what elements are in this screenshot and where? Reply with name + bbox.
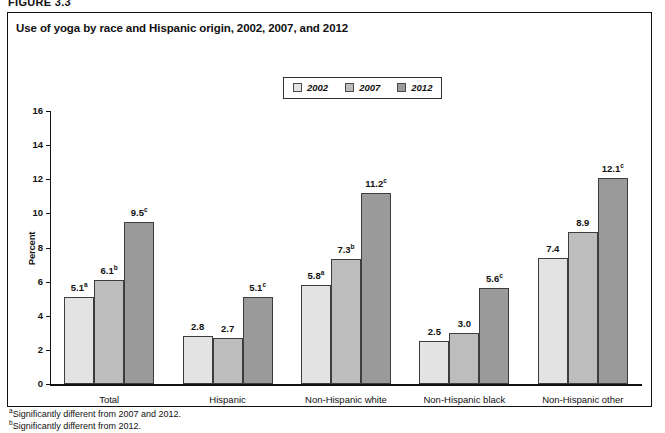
bar-value-label: 9.5c — [114, 208, 164, 218]
y-tick-label: 16 — [21, 106, 43, 116]
y-tick-mark — [46, 282, 50, 283]
footnotes: aSignificantly different from 2007 and 2… — [9, 409, 409, 432]
y-tick-label: 2 — [21, 345, 43, 355]
footnote-text-b: Significantly different from 2012. — [13, 421, 141, 431]
y-tick-label: 0 — [21, 379, 43, 389]
bar[interactable] — [213, 338, 243, 384]
y-tick-label: 6 — [21, 277, 43, 287]
y-tick-mark — [46, 179, 50, 180]
bar[interactable] — [449, 333, 479, 384]
bar[interactable] — [183, 336, 213, 384]
y-tick-mark — [46, 145, 50, 146]
y-tick-mark — [46, 316, 50, 317]
bar[interactable] — [94, 280, 124, 384]
bar[interactable] — [419, 341, 449, 384]
y-tick-label: 4 — [21, 311, 43, 321]
y-tick-label: 12 — [21, 174, 43, 184]
bar[interactable] — [598, 178, 628, 384]
bar-value-label: 11.2c — [351, 179, 401, 189]
figure-panel: Use of yoga by race and Hispanic origin,… — [7, 12, 652, 407]
x-category-label: Non-Hispanic other — [504, 395, 662, 405]
bar[interactable] — [479, 288, 509, 384]
footnote-text-a: Significantly different from 2007 and 20… — [13, 409, 181, 419]
bar[interactable] — [124, 222, 154, 384]
footnote-b: bSignificantly different from 2012. — [9, 421, 409, 433]
y-tick-label: 8 — [21, 243, 43, 253]
y-tick-mark — [46, 213, 50, 214]
bar[interactable] — [64, 297, 94, 384]
bar[interactable] — [301, 285, 331, 384]
bar[interactable] — [243, 297, 273, 384]
footnote-a: aSignificantly different from 2007 and 2… — [9, 409, 409, 421]
y-tick-label: 10 — [21, 208, 43, 218]
bar[interactable] — [568, 232, 598, 384]
bar[interactable] — [361, 193, 391, 384]
plot-area: Percent 0246810121416 5.1a6.1b9.5c2.82.7… — [8, 13, 653, 408]
y-tick-mark — [46, 111, 50, 112]
y-tick-mark — [46, 384, 50, 385]
bar[interactable] — [538, 258, 568, 384]
y-tick-mark — [46, 350, 50, 351]
figure-number: FIGURE 3.3 — [8, 0, 71, 8]
y-axis-line — [50, 111, 51, 384]
y-tick-mark — [46, 248, 50, 249]
bar-value-label: 5.6c — [469, 274, 519, 284]
y-tick-label: 14 — [21, 140, 43, 150]
bar-value-label: 12.1c — [588, 164, 638, 174]
bar-value-label: 5.1c — [233, 283, 283, 293]
bar[interactable] — [331, 259, 361, 384]
x-axis-line — [50, 384, 642, 386]
